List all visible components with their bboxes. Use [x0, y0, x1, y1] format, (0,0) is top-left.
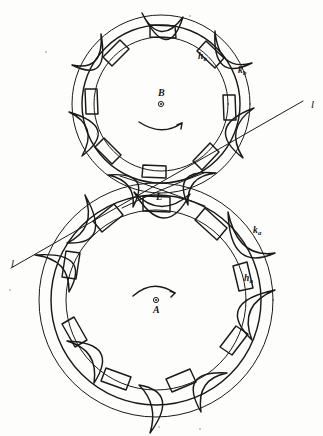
gear-b-group [69, 13, 254, 207]
petal-a-2 [228, 212, 275, 258]
kb-sub: b [243, 69, 246, 76]
petal-b-7 [72, 34, 103, 70]
gear-b-center-dot [160, 103, 162, 105]
gear-b-addendum-label: hb [198, 52, 207, 62]
tooth-slot-b-3 [223, 95, 236, 120]
ha-sub: a [249, 277, 252, 284]
gear-a-center-dot [155, 299, 157, 301]
paper-speck-4 [9, 289, 11, 291]
tooth-slot-a-4 [220, 326, 248, 355]
tooth-slot-a-2 [195, 208, 227, 240]
tooth-slot-b-6 [95, 138, 121, 164]
pitch-point-label: L [156, 192, 162, 202]
gear-a-rotation-arrow [133, 286, 175, 297]
gear-a-center-label: A [153, 305, 160, 315]
tangent-line-l [11, 101, 303, 268]
tangent-line-label-right: l [311, 99, 314, 110]
tooth-slot-b-8 [103, 40, 129, 66]
gear-b-center-label: B [158, 88, 165, 98]
tooth-slot-a-6 [101, 368, 131, 390]
gear-a-outer-label: ka [253, 226, 261, 236]
paper-speck-5 [158, 426, 160, 428]
paper-speck-2 [189, 15, 191, 17]
tooth-slot-b-5 [142, 165, 166, 178]
gear-b-outer-label: kb [238, 66, 246, 76]
ka-sub: a [258, 229, 261, 236]
paper-speck-1 [45, 51, 47, 53]
paper-speck-6 [199, 428, 201, 430]
gear-a-addendum-label: ha [244, 274, 253, 284]
hb-sub: b [203, 55, 206, 62]
petal-a-4 [193, 373, 227, 412]
diagram-canvas [0, 0, 323, 436]
paper-speck-3 [96, 133, 98, 135]
tooth-slot-b-7 [85, 89, 98, 114]
petal-a-7 [35, 255, 76, 292]
gear-b-rotation-arrow [139, 122, 182, 130]
tooth-slot-a-7 [62, 317, 87, 347]
tangent-line-label-left: l [11, 258, 14, 269]
gear-diagram-figure: B A L hb kb ka ha l l [0, 0, 323, 436]
tooth-slot-a-5 [166, 369, 196, 392]
tooth-slot-a-8 [62, 251, 80, 279]
